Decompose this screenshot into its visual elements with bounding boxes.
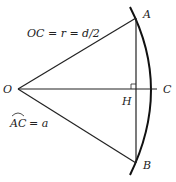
arc-hat-icon: [12, 113, 24, 116]
label-C: C: [163, 83, 172, 96]
circle-arc: [130, 7, 151, 175]
arc-label-rest: = a: [29, 117, 48, 130]
label-B: B: [142, 159, 151, 172]
label-O: O: [3, 83, 12, 96]
right-angle-mark: [131, 84, 136, 89]
circle-segment-diagram: O A B H C OC = r = d/2 AC = a: [0, 0, 176, 182]
arc-label-base: AC: [9, 117, 27, 130]
radius-annotation: OC = r = d/2: [27, 27, 100, 40]
label-A: A: [142, 8, 151, 21]
arc-annotation: AC = a: [9, 113, 48, 130]
label-H: H: [121, 95, 132, 108]
